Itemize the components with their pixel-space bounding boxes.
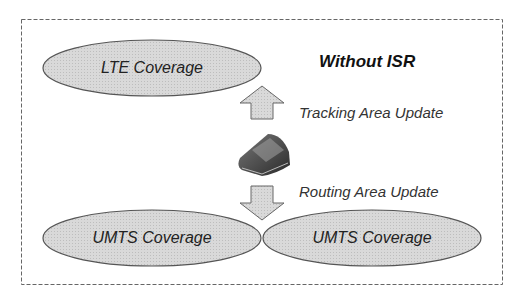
lte-coverage-label: LTE Coverage (43, 59, 261, 77)
arrow-up-icon (240, 86, 284, 119)
diagram-canvas (0, 0, 525, 300)
diagram-title: Without ISR (319, 52, 415, 72)
umts-coverage-label-left: UMTS Coverage (43, 229, 261, 247)
arrow-down-icon (240, 186, 284, 220)
routing-area-update-label: Routing Area Update (299, 183, 439, 200)
mobile-phone-icon (238, 134, 290, 176)
tracking-area-update-label: Tracking Area Update (299, 104, 443, 121)
umts-coverage-label-right: UMTS Coverage (263, 229, 481, 247)
